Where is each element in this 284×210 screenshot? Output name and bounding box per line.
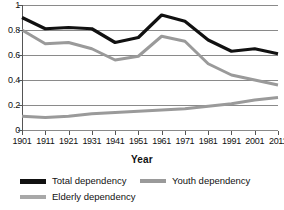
x-tick-label-1951: 1951 (129, 136, 148, 146)
x-tick-label-2011: 2011 (269, 136, 284, 146)
chart-legend: Total dependency Youth dependency Elderl… (0, 174, 284, 210)
series-layer (22, 5, 278, 130)
x-tickmark-1901 (22, 131, 23, 135)
x-tickmark-1981 (208, 131, 209, 135)
legend-swatch-youth-dependency (140, 179, 166, 183)
x-tickmark-1941 (115, 131, 116, 135)
x-axis-tick-labels: 1901191119211931194119511961197119811991… (0, 136, 284, 150)
y-tickmark-0.4 (18, 80, 23, 81)
x-tickmark-1951 (138, 131, 139, 135)
x-tickmark-1921 (69, 131, 70, 135)
y-axis-tick-labels: 00.20.40.60.81 (0, 0, 20, 136)
y-tickmark-1 (18, 5, 23, 6)
legend-label-youth-dependency: Youth dependency (172, 176, 250, 186)
legend-label-total-dependency: Total dependency (52, 176, 126, 186)
y-tickmark-0.6 (18, 55, 23, 56)
x-tickmark-1961 (162, 131, 163, 135)
x-tick-label-1931: 1931 (82, 136, 101, 146)
legend-item-total-dependency: Total dependency (20, 176, 126, 186)
x-tick-label-1991: 1991 (222, 136, 241, 146)
plot-wrapper: 00.20.40.60.81 1901191119211931194119511… (0, 0, 284, 150)
x-tick-label-1911: 1911 (36, 136, 54, 146)
legend-swatch-elderly-dependency (20, 195, 46, 199)
gridline-y-0 (22, 130, 278, 131)
x-tick-label-2001: 2001 (245, 136, 264, 146)
x-tick-label-1941: 1941 (106, 136, 125, 146)
x-tick-label-1921: 1921 (59, 136, 78, 146)
y-tickmark-0.2 (18, 105, 23, 106)
x-tickmark-2011 (278, 131, 279, 135)
x-tick-label-1901: 1901 (13, 136, 32, 146)
y-tickmark-0.8 (18, 30, 23, 31)
x-tickmark-1931 (92, 131, 93, 135)
x-tickmark-2001 (255, 131, 256, 135)
x-tickmark-1971 (185, 131, 186, 135)
x-tick-label-1961: 1961 (152, 136, 171, 146)
x-tickmark-1991 (231, 131, 232, 135)
series-line-youth-dependency (22, 30, 278, 85)
legend-label-elderly-dependency: Elderly dependency (52, 192, 135, 202)
legend-item-youth-dependency: Youth dependency (140, 176, 250, 186)
dependency-ratio-line-chart: 00.20.40.60.81 1901191119211931194119511… (0, 0, 284, 210)
x-tickmark-1911 (45, 131, 46, 135)
x-tick-label-1971: 1971 (175, 136, 194, 146)
x-axis-title: Year (0, 154, 284, 165)
series-line-elderly-dependency (22, 98, 278, 118)
legend-swatch-total-dependency (20, 179, 46, 184)
x-tick-label-1981: 1981 (199, 136, 218, 146)
legend-item-elderly-dependency: Elderly dependency (20, 192, 135, 202)
